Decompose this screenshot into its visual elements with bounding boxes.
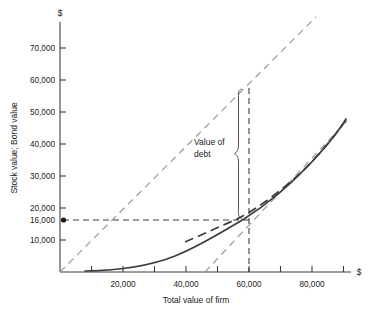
value-of-debt-line2: debt [194, 149, 211, 159]
value-of-debt-annotation: Value of debt [194, 137, 225, 159]
y-axis-ticks [60, 48, 66, 240]
y-tick-label-10000: 10,000 [30, 236, 55, 245]
x-tick-label-40000: 40,000 [173, 280, 198, 289]
x-tick-label-60000: 60,000 [236, 280, 261, 289]
chart-container: 70,000 60,000 50,000 40,000 30,000 20,00… [0, 0, 369, 315]
x-tick-label-20000: 20,000 [110, 280, 135, 289]
y-axis-title: Stock value; Bond value [9, 102, 19, 193]
y-axis-unit-label: $ [58, 8, 63, 18]
value-of-debt-line1: Value of [194, 137, 225, 147]
x-tick-labels: 20,000 40,000 60,000 80,000 [110, 280, 324, 289]
x-tick-label-80000: 80,000 [299, 280, 324, 289]
chart-svg: 70,000 60,000 50,000 40,000 30,000 20,00… [0, 0, 369, 315]
stock-value-marker-dot [61, 217, 66, 222]
axes-group [60, 22, 351, 272]
y-tick-label-60000: 60,000 [30, 76, 55, 85]
y-tick-label-70000: 70,000 [30, 44, 55, 53]
y-tick-labels: 70,000 60,000 50,000 40,000 30,000 20,00… [30, 44, 55, 245]
x-axis-unit-label: $ [357, 267, 362, 277]
y-tick-label-20000: 20,000 [30, 204, 55, 213]
x-axis-title: Total value of firm [163, 295, 230, 305]
total-value-45-line [60, 17, 316, 272]
value-of-debt-brace [235, 89, 242, 219]
y-tick-label-50000: 50,000 [30, 108, 55, 117]
y-tick-label-40000: 40,000 [30, 140, 55, 149]
y-tick-label-16000: 16,000 [30, 216, 55, 225]
y-tick-label-30000: 30,000 [30, 172, 55, 181]
